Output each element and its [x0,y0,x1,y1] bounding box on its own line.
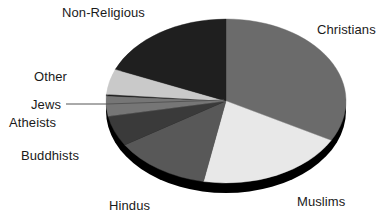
slice-label-non-religious: Non-Religious [62,6,145,20]
slice-label-muslims: Muslims [297,195,345,209]
slice-label-hindus: Hindus [109,199,150,213]
slice-label-buddhists: Buddhists [21,149,79,163]
slice-label-other: Other [34,70,67,84]
slice-label-atheists: Atheists [9,116,56,130]
pie-slice-group [106,19,346,183]
slice-label-jews: Jews [31,98,61,112]
slice-label-christians: Christians [317,23,376,37]
pie-chart-figure: Non-Religious Christians Other Jews Athe… [0,0,390,224]
